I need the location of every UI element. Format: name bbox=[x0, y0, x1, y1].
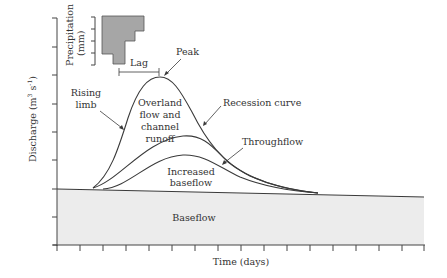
baseflow-label: Baseflow bbox=[172, 212, 215, 223]
throughflow-arrow bbox=[222, 148, 243, 165]
x-axis-label: Time (days) bbox=[213, 256, 269, 267]
hyetograph-label-line1: Precipitation bbox=[64, 4, 75, 66]
overland-flow-label-1: Overland bbox=[138, 97, 182, 108]
rising-limb-label-2: limb bbox=[75, 99, 96, 110]
throughflow-label: Throughflow bbox=[242, 136, 303, 147]
rising-limb-arrow bbox=[100, 111, 124, 130]
peak-arrow bbox=[164, 59, 181, 76]
rising-limb-label-1: Rising bbox=[71, 87, 101, 98]
lag-bracket bbox=[119, 68, 159, 76]
hydrograph-diagram: Precipitation (mm) Discharge (m3 s-1) La… bbox=[0, 0, 447, 278]
y-axis-label: Discharge (m3 s-1) bbox=[26, 76, 38, 162]
increased-baseflow-label-2: baseflow bbox=[170, 177, 212, 188]
overland-flow-label-4: runoff bbox=[145, 133, 175, 144]
lag-label: Lag bbox=[130, 57, 148, 68]
x-axis bbox=[53, 245, 425, 251]
y-axis bbox=[52, 18, 57, 246]
baseflow-area bbox=[57, 189, 424, 245]
peak-label: Peak bbox=[176, 46, 199, 57]
overland-flow-label-3: channel bbox=[141, 121, 179, 132]
recession-curve-label: Recession curve bbox=[223, 97, 302, 108]
increased-baseflow-label-1: Increased bbox=[167, 166, 215, 177]
overland-flow-label-2: flow and bbox=[139, 109, 180, 120]
recession-arrow bbox=[203, 106, 221, 126]
hyetograph-label-line2: (mm) bbox=[75, 31, 86, 56]
